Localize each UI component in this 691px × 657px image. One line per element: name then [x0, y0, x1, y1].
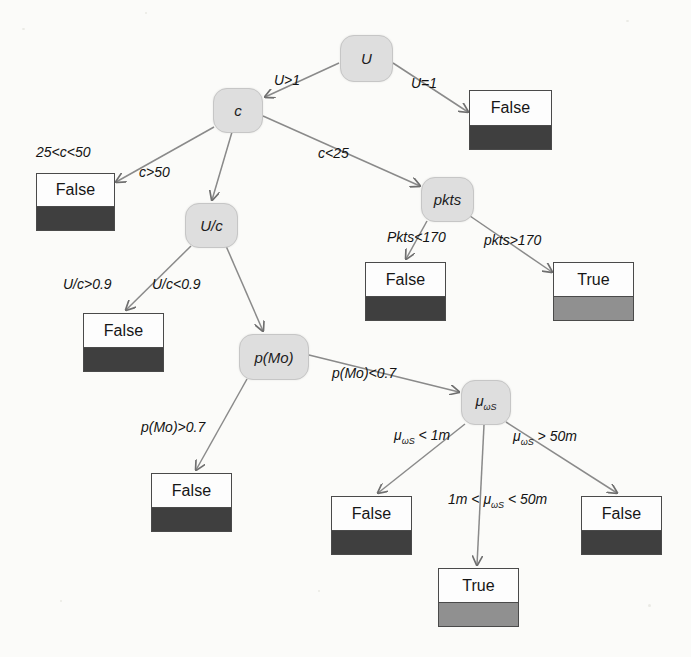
leaf-box-leaf_mu_lt1m: False — [331, 496, 412, 555]
leaf-color-band — [37, 206, 114, 230]
leaf-label: True — [439, 569, 518, 602]
edge-e_Uc_lt09 — [226, 246, 263, 331]
paper-speck — [626, 20, 629, 22]
edge-label-e_c_gt50: c>50 — [139, 165, 170, 179]
leaf-color-band — [439, 602, 518, 626]
edge-label-e_U_c: U>1 — [274, 73, 300, 87]
paper-speck — [145, 12, 147, 14]
leaf-box-leaf_mu_mid: True — [438, 568, 519, 627]
leaf-box-leaf_pkts_gt170: True — [553, 262, 634, 321]
leaf-box-leaf_U_eq1: False — [469, 90, 552, 150]
leaf-box-leaf_mu_gt50m: False — [581, 496, 662, 555]
leaf-color-band — [554, 296, 633, 320]
paper-speck — [318, 590, 320, 592]
decision-node-pkts: pkts — [421, 177, 474, 222]
leaf-color-band — [84, 347, 163, 371]
leaf-label: False — [84, 314, 163, 347]
decision-node-label: pkts — [434, 192, 462, 207]
leaf-label: False — [470, 91, 551, 125]
paper-speck — [22, 28, 25, 30]
leaf-label: False — [37, 174, 114, 206]
subscript: ωS — [402, 436, 415, 446]
decision-node-U: U — [340, 35, 393, 82]
edge-label-e_c_lt25: c<25 — [318, 146, 349, 160]
decision-node-label: p(Mo) — [254, 350, 293, 365]
leaf-box-leaf_pMo_gt07: False — [151, 473, 232, 532]
leaf-color-band — [470, 125, 551, 149]
edge-label-e_pkts_gt170: pkts>170 — [484, 233, 541, 247]
decision-node-label: U/c — [200, 218, 223, 233]
subscript: ωS — [521, 437, 534, 447]
edge-label-e_mu_lt1m: μωS < 1m — [394, 428, 450, 446]
edge-label-e_U_false: U=1 — [411, 76, 437, 90]
subscript: ωS — [491, 500, 504, 510]
edge-label-e_pkts_lt170: Pkts<170 — [387, 230, 446, 244]
edge-label-e_Uc_gt09: U/c>0.9 — [63, 277, 112, 291]
decision-node-label: μωS — [475, 393, 496, 412]
decision-node-subscript: ωS — [484, 402, 497, 412]
edge-label-e_Uc_lt09: U/c<0.9 — [152, 277, 201, 291]
decision-tree-diagram: UcpktsU/cp(Mo)μωS FalseFalseFalseTrueFal… — [0, 0, 691, 657]
leaf-color-band — [152, 507, 231, 531]
paper-speck — [648, 604, 651, 607]
leaf-box-leaf_c_25_50: False — [36, 173, 115, 231]
leaf-color-band — [332, 530, 411, 554]
leaf-label: False — [366, 263, 445, 296]
decision-node-Uc: U/c — [185, 203, 238, 248]
edge-label-e_pMo_lt07: p(Mo)<0.7 — [332, 366, 396, 380]
leaf-label: True — [554, 263, 633, 296]
edge-label-e_mu_mid: 1m < μωS < 50m — [448, 492, 547, 510]
leaf-box-leaf_pkts_lt170: False — [365, 262, 446, 321]
leaf-label: False — [152, 474, 231, 507]
leaf-color-band — [582, 530, 661, 554]
leaf-label: False — [582, 497, 661, 530]
leaf-box-leaf_Uc_gt09: False — [83, 313, 164, 372]
edge-label-e_c_25_50: 25<c<50 — [36, 145, 91, 159]
edge-label-e_pMo_gt07: p(Mo)>0.7 — [141, 420, 205, 434]
decision-node-pMo: p(Mo) — [239, 334, 309, 380]
edge-e_c_gt50 — [212, 132, 232, 200]
paper-speck — [60, 600, 62, 602]
decision-node-label: U — [361, 51, 372, 66]
leaf-label: False — [332, 497, 411, 530]
decision-node-label: c — [234, 103, 242, 118]
leaf-color-band — [366, 296, 445, 320]
decision-node-muwS: μωS — [461, 380, 511, 425]
edge-label-e_mu_gt50m: μωS > 50m — [513, 429, 577, 447]
decision-node-c: c — [213, 88, 263, 133]
